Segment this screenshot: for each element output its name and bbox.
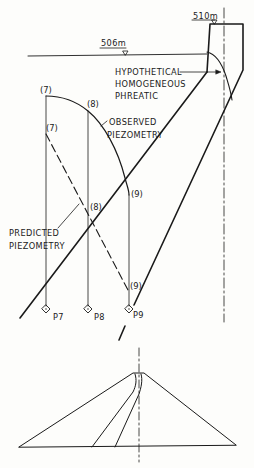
predicted-leader-line	[58, 204, 79, 228]
observed-leader-line	[101, 121, 107, 126]
dam-piezometry-diagram: 510m 506m HYPOTHETICAL HOMOGENEOUS PHREA…	[0, 0, 254, 468]
reservoir-elevation-label: 506m	[101, 38, 126, 48]
hypothetical-phreatic-curve	[207, 52, 232, 100]
dam-section-outline	[19, 373, 236, 447]
observed-piezometry-curve	[46, 96, 129, 195]
observed-tag-p8: (8)	[87, 99, 99, 109]
crest-elevation-label: 510m	[193, 11, 218, 21]
observed-tag-p9: (9)	[131, 189, 143, 199]
piezometer-p9-label: P9	[133, 310, 144, 320]
reservoir-water-line	[28, 54, 207, 56]
hypothetical-label-line1: HYPOTHETICAL	[115, 67, 182, 77]
reservoir-level-triangle-icon	[123, 51, 128, 55]
piezometer-p8-label: P8	[94, 312, 105, 322]
predicted-tag-p9: (9)	[130, 281, 142, 291]
predicted-tag-p8: (8)	[90, 202, 102, 212]
core-left-slope	[20, 72, 207, 318]
predicted-tag-p7: (7)	[46, 123, 58, 133]
core-lower-fragment	[119, 326, 125, 340]
predicted-label-line1: PREDICTED	[9, 228, 59, 238]
observed-label-line2: PIEZOMETRY	[107, 130, 164, 140]
hypothetical-label-line2: HOMOGENEOUS	[115, 79, 186, 89]
hypothetical-label-line3: PHREATIC	[115, 91, 158, 101]
predicted-label-line2: PIEZOMETRY	[9, 241, 66, 251]
piezometer-p7-label: P7	[53, 312, 64, 322]
observed-label-line1: OBSERVED	[109, 117, 157, 127]
hypothetical-arrow-icon	[216, 70, 221, 74]
observed-tag-p7: (7)	[40, 85, 52, 95]
